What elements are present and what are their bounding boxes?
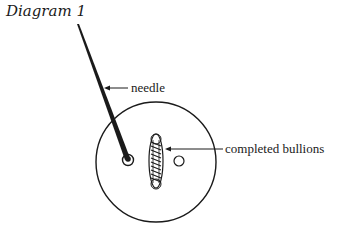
fabric-hole	[174, 156, 184, 166]
diagram-canvas: Diagram 1 needle completed bullions	[0, 0, 337, 239]
needle-callout: needle	[104, 80, 165, 95]
needle-icon	[77, 24, 134, 166]
needle-label: needle	[131, 80, 165, 95]
bullion-knot-icon	[149, 134, 163, 189]
diagram-title: Diagram 1	[5, 2, 86, 20]
bullions-label: completed bullions	[225, 141, 324, 156]
bullions-callout: completed bullions	[165, 141, 324, 156]
